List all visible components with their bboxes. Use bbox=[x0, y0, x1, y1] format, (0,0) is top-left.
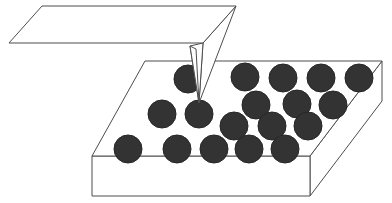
nanoparticle bbox=[163, 135, 191, 163]
nanoparticle bbox=[114, 135, 142, 163]
nanoparticle bbox=[307, 64, 335, 92]
nanoparticle bbox=[148, 100, 176, 128]
row-3 bbox=[220, 112, 322, 140]
afm-schematic-diagram bbox=[0, 0, 392, 203]
cantilever-beam bbox=[9, 6, 236, 43]
nanoparticle bbox=[185, 100, 213, 128]
figure-container bbox=[0, 0, 392, 203]
nanoparticle bbox=[271, 135, 299, 163]
nanoparticle bbox=[319, 91, 347, 119]
nanoparticle bbox=[235, 135, 263, 163]
nanoparticle bbox=[294, 112, 322, 140]
nanoparticle bbox=[200, 135, 228, 163]
nanoparticle bbox=[345, 64, 373, 92]
nanoparticle bbox=[231, 63, 259, 91]
nanoparticle bbox=[269, 64, 297, 92]
